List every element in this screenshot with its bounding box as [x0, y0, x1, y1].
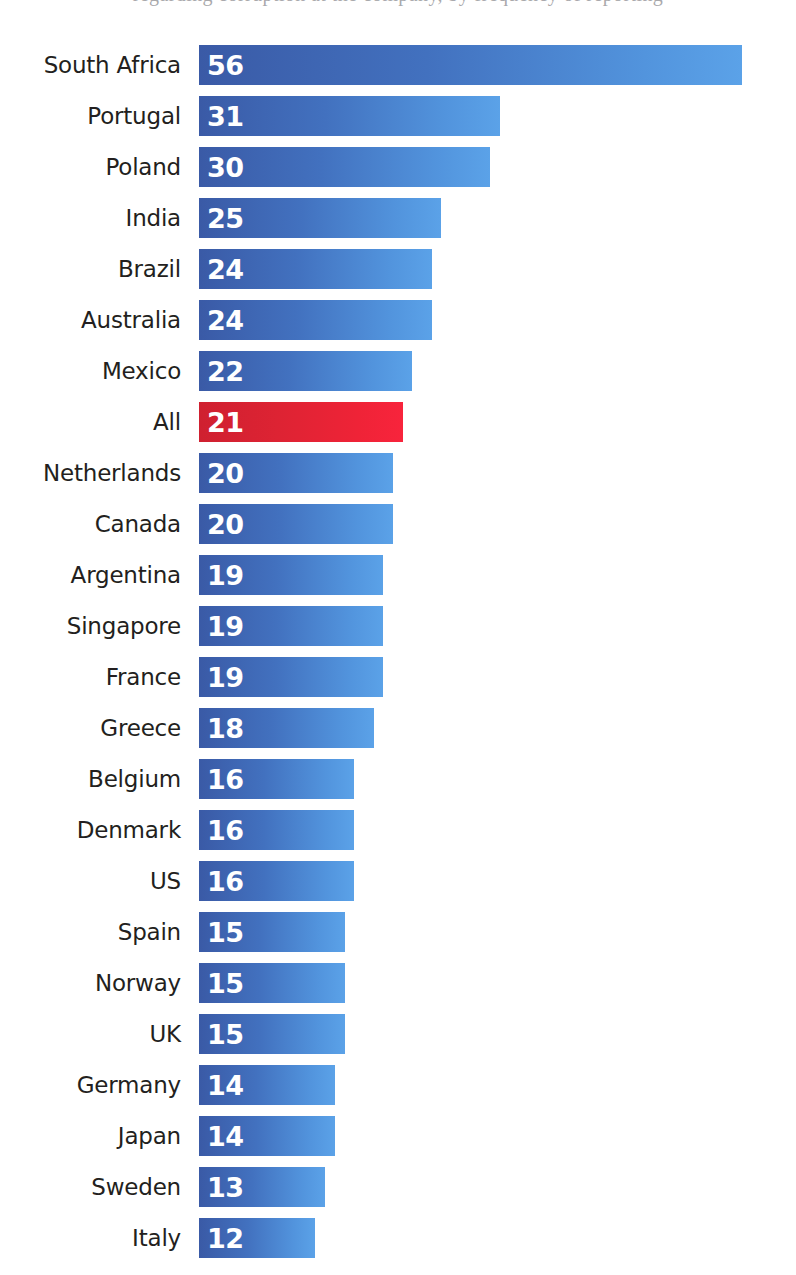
bar-category-label: Singapore [0, 606, 190, 646]
bar-row: Portugal31 [0, 96, 796, 136]
bar-category-label: US [0, 861, 190, 901]
bar-value-label: 21 [207, 402, 244, 442]
bar: 16 [199, 861, 354, 901]
bar-row: Sweden13 [0, 1167, 796, 1207]
bar-rows-container: South Africa56Portugal31Poland30India25B… [0, 45, 796, 1269]
bar-row: Canada20 [0, 504, 796, 544]
bar-value-label: 14 [207, 1116, 244, 1156]
bar-row: Germany14 [0, 1065, 796, 1105]
bar-value-label: 30 [207, 147, 244, 187]
bar-category-label: Mexico [0, 351, 190, 391]
bar-category-label: France [0, 657, 190, 697]
bar-value-label: 19 [207, 606, 244, 646]
bar: 19 [199, 657, 383, 697]
bar: 30 [199, 147, 490, 187]
bar-category-label: Italy [0, 1218, 190, 1258]
bar-category-label: UK [0, 1014, 190, 1054]
bar-value-label: 14 [207, 1065, 244, 1105]
bar: 15 [199, 912, 345, 952]
bar-category-label: Portugal [0, 96, 190, 136]
bar: 19 [199, 606, 383, 646]
bar: 15 [199, 963, 345, 1003]
bar-chart: regarding corruption at the company, by … [0, 0, 796, 1275]
bar-row: All21 [0, 402, 796, 442]
bar-value-label: 20 [207, 453, 244, 493]
bar-value-label: 25 [207, 198, 244, 238]
bar-row: Belgium16 [0, 759, 796, 799]
bar: 12 [199, 1218, 315, 1258]
bar: 14 [199, 1065, 335, 1105]
bar-row: France19 [0, 657, 796, 697]
bar-category-label: South Africa [0, 45, 190, 85]
bar-value-label: 19 [207, 657, 244, 697]
bar-value-label: 16 [207, 810, 244, 850]
bar-category-label: Belgium [0, 759, 190, 799]
bar: 56 [199, 45, 742, 85]
bar-value-label: 31 [207, 96, 244, 136]
bar-value-label: 16 [207, 861, 244, 901]
bar-value-label: 15 [207, 1014, 244, 1054]
bar-row: Greece18 [0, 708, 796, 748]
bar-value-label: 19 [207, 555, 244, 595]
bar: 16 [199, 759, 354, 799]
bar-row: Denmark16 [0, 810, 796, 850]
bar-category-label: All [0, 402, 190, 442]
bar-value-label: 15 [207, 912, 244, 952]
bar-category-label: Argentina [0, 555, 190, 595]
bar: 20 [199, 453, 393, 493]
bar-row: Brazil24 [0, 249, 796, 289]
bar-row: South Africa56 [0, 45, 796, 85]
bar: 24 [199, 300, 432, 340]
bar-category-label: Poland [0, 147, 190, 187]
bar-highlighted: 21 [199, 402, 403, 442]
bar-category-label: Canada [0, 504, 190, 544]
bar-row: Singapore19 [0, 606, 796, 646]
bar-value-label: 15 [207, 963, 244, 1003]
bar-value-label: 16 [207, 759, 244, 799]
bar: 18 [199, 708, 374, 748]
bar-row: Argentina19 [0, 555, 796, 595]
bar-category-label: India [0, 198, 190, 238]
bar-value-label: 56 [207, 45, 244, 85]
bar-row: Italy12 [0, 1218, 796, 1258]
bar-row: Australia24 [0, 300, 796, 340]
clipped-header-text: regarding corruption at the company, by … [0, 0, 796, 7]
bar-value-label: 22 [207, 351, 244, 391]
bar-value-label: 13 [207, 1167, 244, 1207]
bar-category-label: Netherlands [0, 453, 190, 493]
bar-category-label: Germany [0, 1065, 190, 1105]
bar-row: Poland30 [0, 147, 796, 187]
bar: 19 [199, 555, 383, 595]
bar-row: Spain15 [0, 912, 796, 952]
bar-value-label: 20 [207, 504, 244, 544]
bar: 24 [199, 249, 432, 289]
bar: 15 [199, 1014, 345, 1054]
bar-row: Netherlands20 [0, 453, 796, 493]
bar: 20 [199, 504, 393, 544]
bar-category-label: Greece [0, 708, 190, 748]
bar-category-label: Sweden [0, 1167, 190, 1207]
bar: 16 [199, 810, 354, 850]
bar-category-label: Spain [0, 912, 190, 952]
bar-row: Mexico22 [0, 351, 796, 391]
bar-value-label: 24 [207, 249, 244, 289]
bar: 31 [199, 96, 500, 136]
bar: 25 [199, 198, 441, 238]
bar-row: Norway15 [0, 963, 796, 1003]
bar-row: UK15 [0, 1014, 796, 1054]
bar-category-label: Denmark [0, 810, 190, 850]
bar: 22 [199, 351, 412, 391]
bar-row: India25 [0, 198, 796, 238]
bar: 13 [199, 1167, 325, 1207]
bar-value-label: 12 [207, 1218, 244, 1258]
bar-category-label: Australia [0, 300, 190, 340]
bar: 14 [199, 1116, 335, 1156]
bar-row: US16 [0, 861, 796, 901]
bar-value-label: 24 [207, 300, 244, 340]
bar-row: Japan14 [0, 1116, 796, 1156]
bar-category-label: Brazil [0, 249, 190, 289]
bar-value-label: 18 [207, 708, 244, 748]
bar-category-label: Japan [0, 1116, 190, 1156]
bar-category-label: Norway [0, 963, 190, 1003]
